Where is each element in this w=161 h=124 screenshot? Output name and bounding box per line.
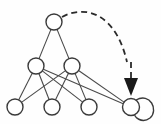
node-sink[interactable]	[123, 99, 140, 116]
node-leaf-3[interactable]	[81, 99, 97, 115]
graph-figure	[0, 0, 161, 124]
graph-canvas	[0, 0, 161, 124]
node-root[interactable]	[46, 14, 62, 30]
node-leaf-2[interactable]	[44, 99, 60, 115]
node-mid-r[interactable]	[64, 58, 80, 74]
node-mid-l[interactable]	[28, 58, 44, 74]
node-leaf-1[interactable]	[7, 99, 23, 115]
